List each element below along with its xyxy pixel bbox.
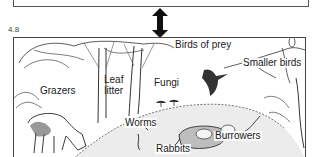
- label-rabbits: Rabbits: [155, 144, 191, 154]
- double-arrow-icon: [150, 8, 170, 38]
- label-smaller-birds: Smaller birds: [242, 58, 302, 68]
- label-grazers: Grazers: [39, 86, 77, 96]
- ecosystem-illustration: Birds of prey Smaller birds Grazers Leaf…: [13, 37, 306, 157]
- label-leaf-line1: Leaf: [104, 74, 123, 85]
- label-leaf-line2: litter: [104, 85, 123, 96]
- label-fungi: Fungi: [153, 78, 180, 88]
- figure-number: 4.8: [8, 25, 19, 34]
- upper-panel-frame: [13, 0, 309, 7]
- label-worms: Worms: [124, 118, 157, 128]
- label-leaf-litter: Leaf litter: [103, 74, 124, 96]
- label-burrowers: Burrowers: [214, 131, 262, 141]
- label-birds-of-prey: Birds of prey: [174, 40, 232, 50]
